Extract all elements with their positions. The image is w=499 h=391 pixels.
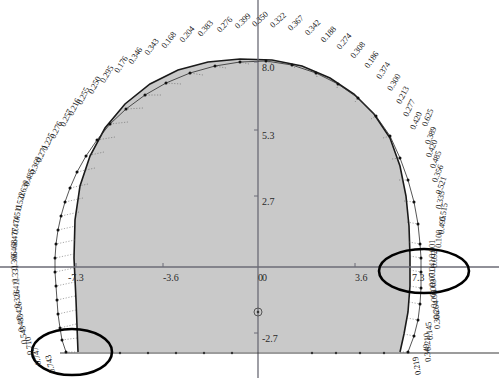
x-axis-tick-label: -3.6 (163, 272, 179, 283)
tunnel-convergence-figure: 0.2570.2160.2550.2500.2950.1760.3460.343… (0, 0, 499, 391)
tunnel-section-fill (74, 59, 410, 352)
y-axis-tick-label: -2.7 (262, 333, 278, 344)
y-axis-tick-label: 2.7 (262, 196, 275, 207)
y-axis-tick-label: 8.0 (262, 62, 275, 73)
x-axis-tick-label: -7.3 (68, 272, 84, 283)
circle-marker-dot (257, 311, 260, 314)
y-axis-tick-label: 0 (262, 272, 267, 283)
y-axis-tick-label: 5.3 (262, 130, 275, 141)
x-axis-tick-label: 3.6 (355, 272, 368, 283)
x-axis-tick-label: 7.3 (412, 272, 425, 283)
